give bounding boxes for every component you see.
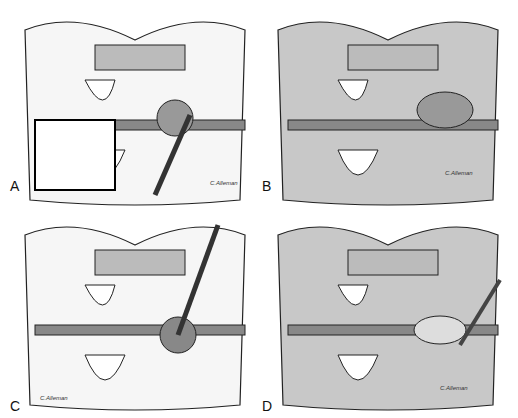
panel-c <box>25 225 245 410</box>
panel-d <box>278 227 500 410</box>
signature-b: C.Alleman <box>445 170 473 176</box>
panel-label-a: A <box>10 178 19 194</box>
panel-a <box>25 22 245 205</box>
panel-b <box>278 22 498 205</box>
signature-d: C.Alleman <box>440 385 468 391</box>
signature-c: C.Alleman <box>40 395 68 401</box>
panel-label-d: D <box>262 398 272 414</box>
panel-label-c: C <box>10 398 20 414</box>
panel-label-b: B <box>262 178 271 194</box>
signature-a: C.Alleman <box>210 180 238 186</box>
